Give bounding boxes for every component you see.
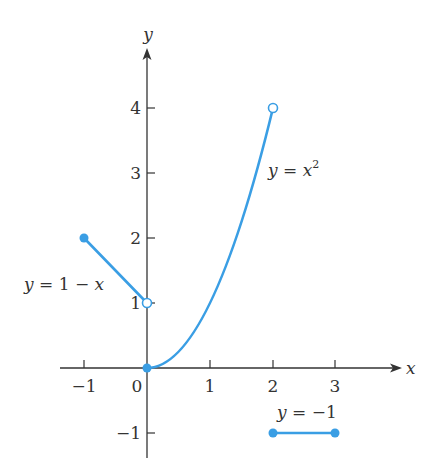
x-tick-label: 0 bbox=[132, 376, 143, 396]
y-tick-label: −1 bbox=[116, 423, 141, 443]
closed-point-icon bbox=[80, 234, 89, 243]
x-axis-label: x bbox=[406, 358, 416, 378]
y-tick-label: 4 bbox=[130, 98, 141, 118]
axes bbox=[60, 56, 396, 458]
x-tick-label: −1 bbox=[71, 376, 96, 396]
tick-labels: −1 0 1 2 3 4 3 2 1 −1 bbox=[71, 98, 340, 443]
piecewise-function-graph: −1 0 1 2 3 4 3 2 1 −1 y x y = 1 − x y = … bbox=[0, 0, 435, 472]
closed-point-icon bbox=[269, 429, 278, 438]
annotation-linear: y = 1 − x bbox=[23, 274, 105, 294]
open-point-icon bbox=[143, 299, 152, 308]
annotation-quadratic: y = x2 bbox=[267, 158, 319, 180]
x-tick-label: 1 bbox=[205, 376, 216, 396]
x-tick-label: 2 bbox=[268, 376, 279, 396]
open-point-icon bbox=[269, 104, 278, 113]
y-axis-label: y bbox=[142, 24, 153, 44]
closed-point-icon bbox=[143, 364, 152, 373]
x-tick-label: 3 bbox=[330, 376, 341, 396]
parabola-segment bbox=[147, 108, 273, 368]
y-tick-label: 3 bbox=[130, 163, 141, 183]
closed-point-icon bbox=[331, 429, 340, 438]
annotation-constant: y = −1 bbox=[276, 402, 337, 422]
y-tick-label: 2 bbox=[130, 228, 141, 248]
